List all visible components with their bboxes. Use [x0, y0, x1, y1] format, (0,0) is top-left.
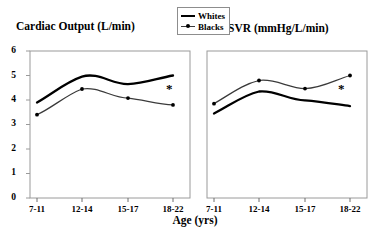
- xtick-label-right-12-14: 12-14: [241, 204, 277, 214]
- plot-frame-right: [207, 51, 367, 198]
- legend-line-swatch-blacks: [181, 23, 195, 31]
- xtick-marks-right: [214, 198, 350, 202]
- significance-asterisk-right: *: [338, 82, 345, 95]
- xtick-label-left-15-17: 15-17: [110, 204, 146, 214]
- xtick-label-left-12-14: 12-14: [64, 204, 100, 214]
- legend-item-blacks: Blacks: [181, 21, 225, 32]
- ytick-marks-left: [26, 51, 30, 198]
- series-line-whites-right: [214, 91, 350, 113]
- series-line-blacks-right: [214, 76, 350, 104]
- xtick-label-right-18-22: 18-22: [332, 204, 368, 214]
- xtick-marks-left: [37, 198, 173, 202]
- plot-frame-left: [30, 51, 190, 198]
- xaxis-label: Age (yrs): [0, 214, 390, 226]
- series-markers-blacks-right: [212, 74, 352, 106]
- legend-label-blacks: Blacks: [198, 22, 224, 32]
- legend: Whites Blacks: [177, 7, 230, 35]
- xtick-label-left-18-22: 18-22: [155, 204, 191, 214]
- figure-container: Whites Blacks Cardiac Output (L/min) SVR…: [0, 0, 390, 241]
- significance-asterisk-left: *: [166, 82, 173, 95]
- xtick-label-right-7-11: 7-11: [196, 204, 232, 214]
- series-line-blacks-left: [37, 89, 173, 115]
- legend-line-swatch-whites: [181, 12, 195, 20]
- xtick-label-left-7-11: 7-11: [19, 204, 55, 214]
- legend-label-whites: Whites: [198, 11, 225, 21]
- xtick-label-right-15-17: 15-17: [287, 204, 323, 214]
- legend-item-whites: Whites: [181, 10, 225, 21]
- series-line-whites-left: [37, 75, 173, 102]
